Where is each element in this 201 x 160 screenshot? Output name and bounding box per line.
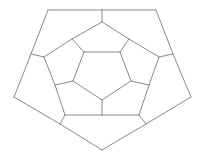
edge-J4-A4 bbox=[31, 54, 44, 57]
edge-A3-B4 bbox=[55, 85, 65, 115]
edge-O2-J2 bbox=[146, 97, 191, 124]
edge-B2-I2 bbox=[131, 81, 149, 85]
edge-B4-A4 bbox=[44, 57, 55, 85]
edge-I1-I2 bbox=[120, 52, 131, 81]
edge-A1-B2 bbox=[149, 57, 159, 85]
edge-B0-I0 bbox=[72, 39, 84, 52]
edge-I2-I3 bbox=[102, 81, 131, 100]
dodecahedron-schlegel-diagram bbox=[0, 0, 201, 160]
edge-A0-B0 bbox=[72, 22, 102, 39]
edge-B1-A1 bbox=[129, 39, 159, 57]
edge-O3-J3 bbox=[60, 124, 102, 150]
edge-J3-O4 bbox=[14, 97, 60, 124]
edge-A4-B0 bbox=[44, 39, 72, 57]
edge-J2-O3 bbox=[102, 124, 146, 150]
diagram-svg bbox=[0, 0, 201, 160]
edge-J2-A2 bbox=[139, 115, 146, 124]
edge-J3-A3 bbox=[60, 115, 65, 124]
edge-A0-B1 bbox=[102, 22, 129, 39]
edge-I3-I4 bbox=[73, 81, 102, 100]
edge-B1-I1 bbox=[120, 39, 129, 52]
edge-O4-J4 bbox=[14, 54, 31, 97]
edge-J1-A1 bbox=[159, 54, 173, 57]
edge-J4-O0 bbox=[31, 10, 48, 54]
edge-I4-I0 bbox=[73, 52, 84, 81]
edge-B2-A2 bbox=[139, 85, 149, 115]
edge-B4-I4 bbox=[55, 81, 73, 85]
edge-O1-J1 bbox=[156, 10, 173, 54]
edge-J1-O2 bbox=[173, 54, 191, 97]
edge-group bbox=[14, 10, 191, 150]
